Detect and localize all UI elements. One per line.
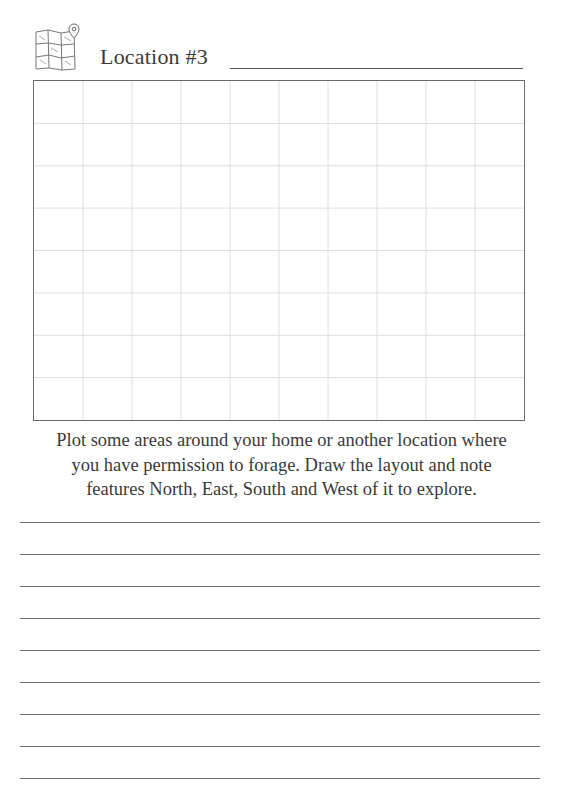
location-pin-icon [69, 24, 79, 38]
writing-line[interactable] [20, 618, 540, 619]
grid-lines [34, 81, 524, 420]
instructions-line-2: you have permission to forage. Draw the … [10, 453, 553, 478]
instructions-line-3: features North, East, South and West of … [10, 477, 553, 502]
title-fill-in-line[interactable] [230, 68, 523, 69]
writing-line[interactable] [20, 714, 540, 715]
writing-line[interactable] [20, 778, 540, 779]
page-title: Location #3 [100, 44, 208, 70]
folded-map-icon [33, 22, 85, 72]
writing-line[interactable] [20, 650, 540, 651]
writing-line[interactable] [20, 554, 540, 555]
plot-grid[interactable] [33, 80, 525, 421]
writing-line[interactable] [20, 682, 540, 683]
instructions-line-1: Plot some areas around your home or anot… [10, 428, 553, 453]
writing-line[interactable] [20, 522, 540, 523]
instructions-text: Plot some areas around your home or anot… [10, 428, 553, 502]
writing-line[interactable] [20, 586, 540, 587]
writing-line[interactable] [20, 746, 540, 747]
